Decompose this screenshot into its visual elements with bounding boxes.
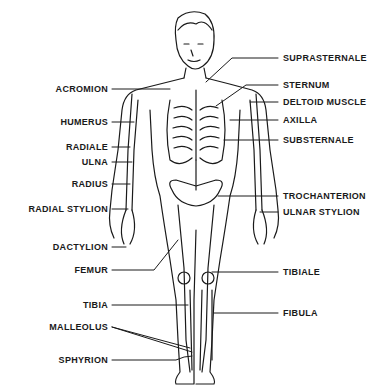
label-humerus: HUMERUS [0,117,108,127]
label-radiale: RADIALE [0,142,108,152]
label-suprasternale: SUPRASTERNALE [283,53,367,63]
label-axilla: AXILLA [283,115,317,125]
ribcage-icon [167,90,225,190]
label-ulnar-stylion: ULNAR STYLION [283,207,360,217]
head-icon [175,12,214,78]
label-substernale: SUBSTERNALE [283,135,354,145]
label-deltoid-muscle: DELTOID MUSCLE [283,97,366,107]
label-malleolus: MALLEOLUS [0,322,108,332]
label-sternum: STERNUM [283,80,330,90]
label-femur: FEMUR [0,265,108,275]
label-sphyrion: SPHYRION [0,355,108,365]
label-fibula: FIBULA [283,308,318,318]
label-dactylion: DACTYLION [0,242,108,252]
right-leader-lines [206,58,278,313]
label-radial-stylion: RADIAL STYLION [0,204,108,214]
label-radius: RADIUS [0,179,108,189]
label-tibiale: TIBIALE [283,267,320,277]
label-tibia: TIBIA [0,300,108,310]
label-acromion: ACROMION [0,84,108,94]
label-trochanterion: TROCHANTERION [283,191,366,201]
arm-bones-icon [121,94,266,244]
label-ulna: ULNA [0,157,108,167]
